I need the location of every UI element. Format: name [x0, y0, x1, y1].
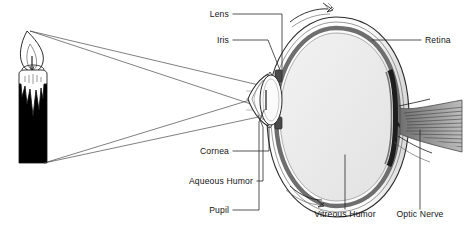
diagram-canvas: Lens Iris Retina Cornea Aqueous Humor Pu… [0, 0, 464, 234]
ray-base-lower [44, 116, 263, 163]
label-cornea: Cornea [200, 146, 229, 156]
eye-vitreous-humor [280, 33, 395, 201]
ray-base-upper [44, 96, 263, 163]
leader-iris [233, 40, 280, 70]
label-retina: Retina [425, 35, 451, 45]
candle [19, 31, 47, 163]
label-iris: Iris [217, 35, 229, 45]
leader-pupil [233, 110, 264, 210]
label-pupil: Pupil [209, 205, 229, 215]
label-aqueous-humor: Aqueous Humor [189, 176, 253, 186]
eye-diagram-figure: Lens Iris Retina Cornea Aqueous Humor Pu… [0, 0, 464, 234]
leader-lens [233, 14, 282, 71]
label-lens: Lens [210, 9, 229, 19]
leader-aqueous-humor [257, 115, 263, 181]
label-optic-nerve: Optic Nerve [396, 209, 443, 219]
eye-lens [260, 75, 282, 125]
label-vitreous-humor: Vitreous Humor [314, 209, 376, 219]
leader-cornea [233, 123, 269, 151]
